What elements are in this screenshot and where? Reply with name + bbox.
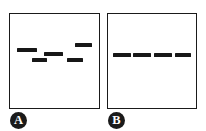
- band-b-1: [113, 53, 131, 56]
- panel-label-a: A: [10, 112, 27, 129]
- band-b-2: [133, 53, 151, 56]
- band-a-3: [44, 52, 63, 55]
- band-a-1: [17, 48, 38, 51]
- band-a-5: [75, 43, 93, 46]
- panel-label-b: B: [108, 112, 125, 129]
- band-a-2: [32, 58, 48, 61]
- figure-container: A B: [0, 0, 206, 131]
- panel-a: [9, 13, 100, 109]
- band-b-3: [154, 53, 172, 56]
- band-b-4: [175, 53, 192, 56]
- band-a-4: [67, 58, 84, 61]
- panel-b: [107, 13, 197, 109]
